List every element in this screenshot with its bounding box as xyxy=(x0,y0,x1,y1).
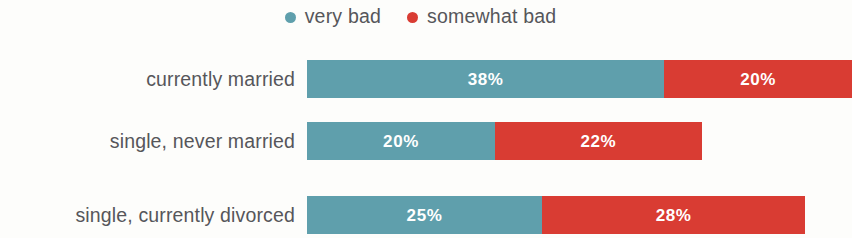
category-label: currently married xyxy=(146,60,295,98)
circle-dot-icon xyxy=(407,12,418,23)
chart-legend: very bad somewhat bad xyxy=(0,4,841,30)
bar-value-label: 20% xyxy=(740,71,776,88)
legend-label-very-bad: very bad xyxy=(305,7,381,27)
bar-segment-somewhat-bad[interactable]: 20% xyxy=(664,60,852,98)
category-label: single, currently divorced xyxy=(75,196,295,234)
bar-segment-somewhat-bad[interactable]: 28% xyxy=(542,196,805,234)
bar-row: currently married 38% 20% xyxy=(0,60,841,98)
bar-row: single, never married 20% 22% xyxy=(0,122,841,160)
bar-segment-very-bad[interactable]: 20% xyxy=(307,122,495,160)
bar-segment-very-bad[interactable]: 38% xyxy=(307,60,664,98)
bar-track: 20% 22% xyxy=(307,122,702,160)
bar-segment-very-bad[interactable]: 25% xyxy=(307,196,542,234)
bar-value-label: 38% xyxy=(468,71,504,88)
bar-value-label: 22% xyxy=(580,133,616,150)
bar-row: single, currently divorced 25% 28% xyxy=(0,196,841,234)
circle-dot-icon xyxy=(285,12,296,23)
bar-value-label: 25% xyxy=(407,207,443,224)
legend-label-somewhat-bad: somewhat bad xyxy=(427,7,556,27)
bar-track: 25% 28% xyxy=(307,196,805,234)
bar-value-label: 20% xyxy=(383,133,419,150)
category-label: single, never married xyxy=(110,122,295,160)
bar-track: 38% 20% xyxy=(307,60,852,98)
bar-value-label: 28% xyxy=(656,207,692,224)
legend-item-somewhat-bad[interactable]: somewhat bad xyxy=(407,7,556,27)
bar-segment-somewhat-bad[interactable]: 22% xyxy=(495,122,702,160)
legend-item-very-bad[interactable]: very bad xyxy=(285,7,381,27)
